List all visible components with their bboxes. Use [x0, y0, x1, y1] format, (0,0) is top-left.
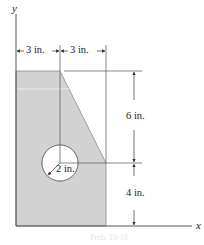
cross-section-diagram: y x 3 in. 3 in. 6 in. 4 in. 2 in. Prob. …	[0, 0, 204, 245]
x-axis-label: x	[196, 220, 201, 231]
dim-top-left-width: 3 in.	[25, 45, 46, 56]
figure-caption: Prob. 10-10	[90, 234, 128, 242]
y-axis-label: y	[12, 3, 17, 14]
dim-lower-height: 4 in.	[125, 188, 146, 199]
dim-hole-radius: 2 in.	[55, 164, 76, 175]
dim-top-right-width: 3 in.	[69, 45, 90, 56]
dim-upper-height: 6 in.	[125, 111, 146, 122]
